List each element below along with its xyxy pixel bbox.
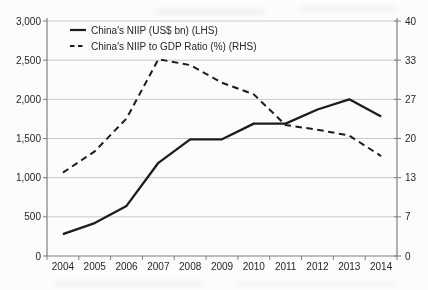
niip-line-series bbox=[63, 99, 381, 234]
legend-label-ratio: China's NIIP to GDP Ratio (%) (RHS) bbox=[91, 41, 256, 52]
x-axis-tick-label: 2008 bbox=[179, 261, 202, 272]
right-axis-tick-label: 13 bbox=[405, 172, 417, 183]
dashed-line-swatch-icon bbox=[70, 44, 86, 48]
left-axis-tick-label: 2,000 bbox=[16, 94, 41, 105]
x-axis-tick-label: 2007 bbox=[147, 261, 170, 272]
left-axis-tick-label: 2,500 bbox=[16, 55, 41, 66]
niip-chart: 0050071,000131,500202,000272,500333,0004… bbox=[0, 0, 428, 290]
scan-artifact bbox=[235, 282, 395, 287]
right-axis-tick-label: 40 bbox=[405, 16, 417, 27]
right-axis-tick-label: 0 bbox=[405, 251, 411, 262]
right-axis-tick-label: 33 bbox=[405, 55, 417, 66]
scan-artifact bbox=[155, 9, 265, 14]
legend-item-ratio: China's NIIP to GDP Ratio (%) (RHS) bbox=[70, 40, 256, 52]
left-axis-tick-label: 3,000 bbox=[16, 16, 41, 27]
niip-gdp-ratio-line-series bbox=[63, 59, 381, 172]
left-axis-tick-label: 1,000 bbox=[16, 172, 41, 183]
right-axis-tick-label: 20 bbox=[405, 133, 417, 144]
scan-artifact bbox=[55, 281, 205, 286]
right-axis-tick-label: 27 bbox=[405, 94, 417, 105]
x-axis-tick-label: 2006 bbox=[115, 261, 138, 272]
x-axis-tick-label: 2005 bbox=[84, 261, 107, 272]
chart-legend: China's NIIP (US$ bn) (LHS) China's NIIP… bbox=[70, 24, 256, 52]
scan-artifact bbox=[300, 6, 395, 11]
legend-label-niip: China's NIIP (US$ bn) (LHS) bbox=[91, 25, 218, 36]
left-axis-tick-label: 500 bbox=[24, 211, 41, 222]
legend-item-niip: China's NIIP (US$ bn) (LHS) bbox=[70, 24, 256, 36]
solid-line-swatch-icon bbox=[70, 28, 86, 32]
x-axis-tick-label: 2014 bbox=[370, 261, 393, 272]
x-axis-tick-label: 2010 bbox=[243, 261, 266, 272]
x-axis-tick-label: 2011 bbox=[275, 261, 297, 272]
x-axis-tick-label: 2012 bbox=[306, 261, 329, 272]
left-axis-tick-label: 0 bbox=[35, 251, 41, 262]
x-axis-tick-label: 2013 bbox=[338, 261, 361, 272]
x-axis-tick-label: 2004 bbox=[52, 261, 75, 272]
right-axis-tick-label: 7 bbox=[405, 211, 411, 222]
x-axis-tick-label: 2009 bbox=[211, 261, 234, 272]
left-axis-tick-label: 1,500 bbox=[16, 133, 41, 144]
